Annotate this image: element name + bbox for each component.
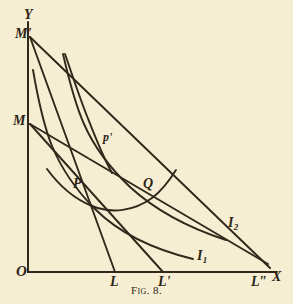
point-label-q: Q (143, 177, 153, 191)
x-axis-label: X (272, 270, 281, 284)
curve-label-i2: I2 (228, 216, 238, 232)
point-label-p: P (73, 177, 82, 191)
point-label-m: M (13, 114, 25, 128)
curve-label-i2-subscript: 2 (233, 222, 238, 232)
point-label-m-prime: M' (15, 27, 31, 41)
figure-caption: Fig. 8. (0, 284, 293, 296)
figure-8-container: Y M' M O P p' Q L L' L″ X I1 I2 Fig. 8. (0, 0, 293, 304)
point-label-p-prime: p' (103, 131, 112, 143)
curve-label-i1: I1 (197, 249, 207, 265)
indifference-curve-i1 (33, 70, 193, 259)
budget-line-m-l-double-prime (30, 124, 268, 264)
y-axis-label: Y (24, 8, 33, 22)
budget-line-m-prime-l-double-prime (30, 37, 270, 268)
origin-label: O (16, 264, 27, 279)
curve-label-i1-subscript: 1 (202, 255, 207, 265)
figure-8-plot (0, 0, 293, 304)
